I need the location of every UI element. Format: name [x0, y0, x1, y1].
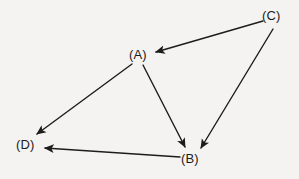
edge-layer [37, 21, 273, 157]
graph-edge-a-to-d [37, 64, 132, 134]
graph-node-a: (A) [129, 48, 147, 61]
graph-edge-c-to-a [156, 21, 263, 52]
graph-edge-c-to-b [201, 29, 273, 148]
graph-node-c: (C) [262, 9, 280, 22]
graph-edge-b-to-d [45, 148, 180, 157]
graph-edge-a-to-b [143, 65, 185, 147]
directed-graph-figure: (A)(B)(C)(D) [0, 0, 299, 179]
graph-edge-canvas [0, 0, 299, 179]
graph-node-b: (B) [181, 152, 199, 165]
graph-node-d: (D) [16, 138, 34, 151]
